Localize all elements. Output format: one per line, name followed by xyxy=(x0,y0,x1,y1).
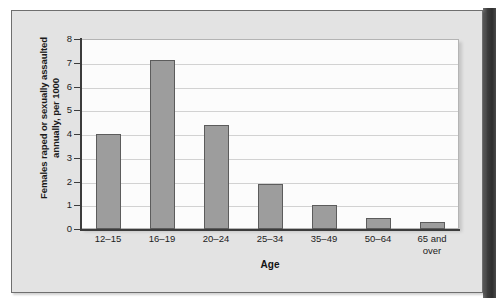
y-axis-tick-mark xyxy=(74,134,81,135)
y-axis-tick-label: 3 xyxy=(52,153,72,163)
y-axis-tick-mark xyxy=(74,229,81,230)
bar xyxy=(312,205,337,229)
x-axis-tick-label: 35–49 xyxy=(297,233,351,245)
y-axis-tick-mark xyxy=(74,63,81,64)
x-axis-tick-label-line: 65 and xyxy=(405,233,459,245)
x-axis-line xyxy=(80,229,460,231)
x-axis-tick-label-line: 12–15 xyxy=(81,233,135,245)
x-axis-tick-label-line: 35–49 xyxy=(297,233,351,245)
y-axis-tick-label: 8 xyxy=(52,34,72,44)
bar xyxy=(420,222,445,229)
bars-container xyxy=(81,39,459,229)
figure-frame: Females raped or sexually assaulted annu… xyxy=(11,10,483,293)
bar xyxy=(366,218,391,229)
figure-page: Females raped or sexually assaulted annu… xyxy=(0,0,503,306)
y-axis-tick-label: 4 xyxy=(52,129,72,139)
y-axis-tick-label: 6 xyxy=(52,82,72,92)
y-axis-tick-label: 0 xyxy=(52,224,72,234)
x-axis-tick-label-line: over xyxy=(405,245,459,257)
y-axis-tick-mark xyxy=(74,182,81,183)
x-axis-tick-label: 20–24 xyxy=(189,233,243,245)
y-axis-tick-labels: 012345678 xyxy=(50,11,72,294)
y-axis-tick-mark xyxy=(74,110,81,111)
y-axis-tick-mark xyxy=(74,158,81,159)
bar xyxy=(150,60,175,229)
bar xyxy=(258,184,283,229)
y-axis-tick-label: 2 xyxy=(52,177,72,187)
y-axis-tick-label: 7 xyxy=(52,58,72,68)
y-axis-tick-mark xyxy=(74,205,81,206)
y-axis-tick-mark xyxy=(74,87,81,88)
x-axis-tick-label: 25–34 xyxy=(243,233,297,245)
x-axis-tick-label: 12–15 xyxy=(81,233,135,245)
x-axis-tick-label-line: 16–19 xyxy=(135,233,189,245)
x-axis-tick-label: 16–19 xyxy=(135,233,189,245)
bar xyxy=(96,134,121,229)
x-axis-tick-label: 50–64 xyxy=(351,233,405,245)
y-axis-tick-mark xyxy=(74,39,81,40)
x-axis-tick-label-line: 20–24 xyxy=(189,233,243,245)
bar-chart: Females raped or sexually assaulted annu… xyxy=(12,11,484,294)
x-axis-tick-label: 65 andover xyxy=(405,233,459,256)
y-axis-title-line-1: Females raped or sexually assaulted xyxy=(38,18,50,218)
y-axis-tick-label: 5 xyxy=(52,105,72,115)
y-axis-tick-label: 1 xyxy=(52,200,72,210)
bar xyxy=(204,125,229,230)
x-axis-tick-label-line: 50–64 xyxy=(351,233,405,245)
x-axis-tick-label-line: 25–34 xyxy=(243,233,297,245)
x-axis-title: Age xyxy=(81,259,459,270)
book-spine-strip xyxy=(483,8,496,298)
